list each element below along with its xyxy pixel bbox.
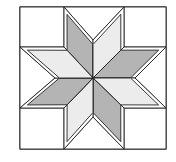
center-point (92, 77, 95, 80)
star-center (92, 77, 95, 80)
corner-square-top-left (20, 7, 64, 47)
corner-square-top-right (124, 7, 166, 47)
quilt-star-block (0, 0, 176, 162)
corner-square-bottom-right (124, 108, 166, 149)
corner-square-bottom-left (20, 108, 64, 149)
